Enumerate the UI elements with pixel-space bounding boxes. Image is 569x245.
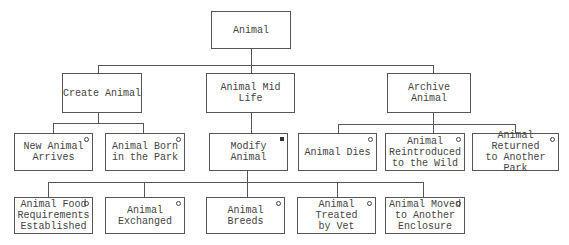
- node-modify-animal[interactable]: Modify Animal: [209, 133, 288, 171]
- node-label: Animal Returned to Another Park: [473, 130, 558, 174]
- circle-marker-icon: [456, 137, 461, 142]
- circle-marker-icon: [456, 201, 461, 206]
- circle-marker-icon: [176, 201, 181, 206]
- node-label: Animal Breeds: [227, 205, 263, 227]
- circle-marker-icon: [550, 137, 555, 142]
- node-label: Animal: [233, 25, 269, 36]
- node-label: Animal Reintroduced to the Wild: [389, 136, 461, 169]
- hierarchy-diagram: Animal Create Animal Animal Mid Life Arc…: [0, 0, 569, 245]
- node-animal-dies[interactable]: Animal Dies: [298, 133, 377, 171]
- node-label: Animal Exchanged: [118, 205, 172, 227]
- node-label: Modify Animal: [210, 141, 287, 163]
- node-label: Animal Born in the Park: [112, 141, 178, 163]
- circle-marker-icon: [84, 137, 89, 142]
- node-create-animal[interactable]: Create Animal: [62, 73, 142, 113]
- node-animal-reintroduced[interactable]: Animal Reintroduced to the Wild: [385, 133, 465, 171]
- node-animal-moved[interactable]: Animal Moved to Another Enclosure: [385, 197, 465, 234]
- node-animal-mid-life[interactable]: Animal Mid Life: [206, 73, 295, 113]
- node-label: New Animal Arrives: [23, 141, 83, 163]
- node-label: Animal Moved to Another Enclosure: [389, 199, 461, 232]
- node-label: Animal Food Requirements Established: [17, 199, 89, 232]
- node-animal-breeds[interactable]: Animal Breeds: [206, 197, 285, 234]
- node-label: Animal Treated by Vet: [298, 199, 375, 232]
- node-animal-exchanged[interactable]: Animal Exchanged: [105, 197, 185, 234]
- node-animal-born-in-the-park[interactable]: Animal Born in the Park: [105, 133, 185, 171]
- node-animal-returned[interactable]: Animal Returned to Another Park: [472, 133, 559, 171]
- circle-marker-icon: [367, 201, 372, 206]
- node-label: Animal Dies: [304, 147, 370, 158]
- circle-marker-icon: [368, 137, 373, 142]
- circle-marker-icon: [176, 137, 181, 142]
- node-animal-treated-by-vet[interactable]: Animal Treated by Vet: [297, 197, 376, 234]
- square-marker-icon: [280, 137, 284, 141]
- circle-marker-icon: [84, 201, 89, 206]
- node-new-animal-arrives[interactable]: New Animal Arrives: [14, 133, 93, 171]
- circle-marker-icon: [276, 201, 281, 206]
- node-archive-animal[interactable]: Archive Animal: [387, 73, 471, 113]
- node-animal[interactable]: Animal: [211, 11, 291, 49]
- node-animal-food-requirements[interactable]: Animal Food Requirements Established: [14, 197, 93, 234]
- node-label: Animal Mid Life: [207, 82, 294, 104]
- node-label: Archive Animal: [388, 82, 470, 104]
- node-label: Create Animal: [63, 88, 141, 99]
